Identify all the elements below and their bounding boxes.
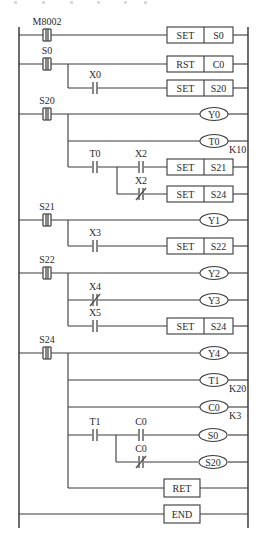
contact-no-x2: X2 <box>135 148 147 173</box>
step-contact-m8002: M8002 <box>33 16 62 41</box>
instruction-operand: S22 <box>211 241 227 252</box>
contact-label: T1 <box>89 416 100 427</box>
coil-label: S0 <box>208 430 219 441</box>
coil-t0: T0 K10 <box>200 135 246 156</box>
instruction-op: RST <box>176 59 194 70</box>
instruction-operand: S24 <box>211 189 227 200</box>
coil-y0: Y0 <box>200 108 228 121</box>
contact-label: X3 <box>89 227 101 238</box>
contact-nc-x2: X2 <box>135 175 147 200</box>
instruction-operand: S21 <box>211 162 227 173</box>
step-contact-s20: S20 <box>39 95 55 120</box>
contact-label: C0 <box>135 416 147 427</box>
contact-nc-c0: C0 <box>135 443 147 468</box>
coil-y2: Y2 <box>200 267 228 280</box>
instruction-boxes: SET S0 RST C0 SET S20 SET S21 SET S24 <box>167 27 233 334</box>
ladder-diagram: M8002 S0 S20 S21 <box>0 0 265 538</box>
step-contact-s24: S24 <box>39 334 55 359</box>
instruction-end: END <box>164 505 200 523</box>
instruction-ret: RET <box>164 479 200 497</box>
contact-label: T0 <box>89 148 100 159</box>
contact-no-x0: X0 <box>89 69 101 94</box>
instruction-operand: S0 <box>213 30 224 41</box>
instruction-set-s22: SET S22 <box>167 238 233 254</box>
coil-label: C0 <box>208 402 220 413</box>
coil-label: S20 <box>205 457 221 468</box>
step-contact-s0: S0 <box>42 45 53 70</box>
coil-label: Y3 <box>208 295 220 306</box>
coil-y3: Y3 <box>200 294 228 307</box>
coil-preset: K20 <box>229 383 246 394</box>
step-contact-label: S21 <box>39 201 55 212</box>
coil-label: Y1 <box>208 215 220 226</box>
contact-no-t1: T1 <box>89 416 100 441</box>
coil-label: Y2 <box>208 268 220 279</box>
contact-label: X4 <box>89 281 101 292</box>
contact-label: X2 <box>135 175 147 186</box>
contact-no-t0: T0 <box>89 148 100 173</box>
instruction-set-s0: SET S0 <box>167 27 233 43</box>
instruction-set-s24: SET S24 <box>167 186 233 202</box>
step-contact-label: M8002 <box>33 16 62 27</box>
step-contact-s22: S22 <box>39 254 55 279</box>
instruction-set-s20: SET S20 <box>167 80 233 96</box>
instruction-op: SET <box>177 83 195 94</box>
contact-label: X5 <box>89 307 101 318</box>
contact-no-x3: X3 <box>89 227 101 252</box>
contact-nc-x4: X4 <box>89 281 101 306</box>
program-control: RET END <box>164 479 200 523</box>
contact-label: X2 <box>135 148 147 159</box>
instruction-op: SET <box>177 241 195 252</box>
instruction-op: RET <box>173 483 192 494</box>
coil-label: Y4 <box>208 348 220 359</box>
coil-y4: Y4 <box>200 347 228 360</box>
instruction-operand: C0 <box>213 59 225 70</box>
coil-label: T0 <box>208 136 219 147</box>
step-contact-label: S0 <box>42 45 53 56</box>
instruction-rst-c0: RST C0 <box>167 56 233 72</box>
coil-label: T1 <box>208 375 219 386</box>
step-contact-label: S20 <box>39 95 55 106</box>
coil-label: Y0 <box>208 109 220 120</box>
step-contact-label: S22 <box>39 254 55 265</box>
instruction-op: SET <box>177 162 195 173</box>
coil-preset: K10 <box>229 144 246 155</box>
instruction-op: SET <box>177 321 195 332</box>
step-contact-s21: S21 <box>39 201 55 226</box>
contact-label: C0 <box>135 443 147 454</box>
instruction-op: SET <box>177 189 195 200</box>
coil-t1: T1 K20 <box>200 374 246 395</box>
step-contacts: M8002 S0 S20 S21 <box>33 16 62 359</box>
instruction-op: END <box>172 509 193 520</box>
coil-s20: S20 <box>199 456 227 469</box>
coil-c0: C0 K3 <box>200 401 241 422</box>
coil-y1: Y1 <box>200 214 228 227</box>
instruction-operand: S24 <box>211 321 227 332</box>
coil-s0: S0 <box>199 429 227 442</box>
instruction-set-s24-b: SET S24 <box>167 318 233 334</box>
contact-label: X0 <box>89 69 101 80</box>
step-contact-label: S24 <box>39 334 55 345</box>
contacts: X0 T0 X2 X2 X3 <box>89 69 147 468</box>
contact-no-x5: X5 <box>89 307 101 332</box>
contact-no-c0: C0 <box>135 416 147 441</box>
scan-artifacts <box>14 1 147 4</box>
coil-preset: K3 <box>229 410 241 421</box>
instruction-set-s21: SET S21 <box>167 159 233 175</box>
instruction-operand: S20 <box>211 83 227 94</box>
instruction-op: SET <box>177 30 195 41</box>
